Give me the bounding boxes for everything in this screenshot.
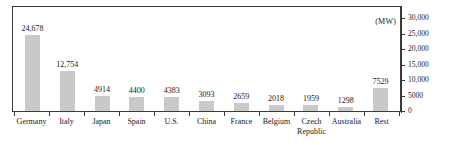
bar-series: 24,67812,7544914440043833093265920181959… [13,7,400,111]
value-axis-tick-label: 25,000 [408,30,429,38]
bar-group: 4400 [119,7,154,111]
value-axis-tick-label: 15,000 [408,61,429,69]
category-label-line: Germany [14,117,49,127]
value-axis: 0500010,00015,00020,00025,00030,000 [401,6,451,113]
bar-chart-figure: (MW) 24,67812,75449144400438330932659201… [0,0,451,145]
category-axis-tick [329,112,330,116]
bar-group: 2018 [259,7,294,111]
category-label-line: Japan [84,117,119,127]
bar-value-label: 3093 [198,90,214,99]
bar-value-label: 1959 [303,94,319,103]
bar [199,101,214,111]
value-axis-tick [401,65,405,66]
value-axis-tick-label: 10,000 [408,76,429,84]
plot-area-frame: (MW) 24,67812,75449144400438330932659201… [12,6,401,112]
bar [234,103,249,111]
category-label-line: France [224,117,259,127]
category-label-line: Spain [119,117,154,127]
category-axis-tick [119,112,120,116]
bar [373,88,388,111]
bar [269,105,284,111]
value-axis-tick [401,49,405,50]
category-axis-tick [224,112,225,116]
category-label-line: Australia [329,117,364,127]
bar-group: 3093 [189,7,224,111]
category-label: Belgium [259,117,294,136]
bar-value-label: 2659 [233,92,249,101]
value-axis-tick [401,96,405,97]
category-axis-tick [154,112,155,116]
bar-value-label: 4914 [94,85,110,94]
bar-value-label: 2018 [268,94,284,103]
category-axis-tick [49,112,50,116]
bar-value-label: 4400 [129,86,145,95]
bar [129,97,144,111]
bar-group: 4383 [154,7,189,111]
bar-group: 1298 [328,7,363,111]
category-label: Spain [119,117,154,136]
value-axis-tick [401,111,405,112]
value-axis-tick-label: 5000 [408,92,423,100]
bar-group: 4914 [85,7,120,111]
category-axis-tick [14,112,15,116]
bar-group: 1959 [294,7,329,111]
category-label: France [224,117,259,136]
category-label: Rest [364,117,399,136]
bar-group: 12,754 [50,7,85,111]
category-axis-labels: GermanyItalyJapanSpainU.S.ChinaFranceBel… [12,117,401,136]
category-axis-ticks [12,112,401,116]
category-label-line: Italy [49,117,84,127]
bar [95,96,110,111]
category-label: Australia [329,117,364,136]
category-label-line: Czech [294,117,329,127]
bar-group: 24,678 [15,7,50,111]
bar [303,105,318,111]
category-label: Japan [84,117,119,136]
bar-group: 2659 [224,7,259,111]
bar-value-label: 12,754 [56,60,78,69]
category-label: China [189,117,224,136]
bar-group: 7529 [363,7,398,111]
bar-value-label: 24,678 [21,24,43,33]
value-axis-tick [401,80,405,81]
category-axis-tick [364,112,365,116]
category-label-line: Rest [364,117,399,127]
category-label: Germany [14,117,49,136]
bar [25,35,40,112]
bar-value-label: 7529 [373,77,389,86]
category-axis-tick [294,112,295,116]
category-axis-tick [189,112,190,116]
value-axis-tick-label: 30,000 [408,14,429,22]
category-label-line: Republic [294,127,329,137]
category-label-line: U.S. [154,117,189,127]
bar-value-label: 4383 [164,86,180,95]
bar [60,71,75,111]
value-axis-line [401,6,402,113]
bar [338,107,353,111]
value-axis-tick [401,18,405,19]
bar [164,97,179,111]
category-axis-tick [259,112,260,116]
value-axis-tick [401,34,405,35]
category-label: Italy [49,117,84,136]
category-label-line: Belgium [259,117,294,127]
category-label-line: China [189,117,224,127]
value-axis-tick-label: 0 [408,107,412,115]
category-label: U.S. [154,117,189,136]
category-axis-tick [84,112,85,116]
value-axis-tick-label: 20,000 [408,45,429,53]
category-axis-tick [399,112,400,116]
category-label: CzechRepublic [294,117,329,136]
bar-value-label: 1298 [338,96,354,105]
